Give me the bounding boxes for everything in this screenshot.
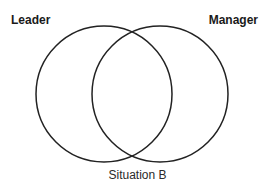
manager-circle — [92, 26, 228, 162]
leader-circle — [36, 26, 172, 162]
manager-label: Manager — [209, 13, 258, 27]
venn-diagram — [0, 0, 275, 187]
leader-label: Leader — [11, 13, 50, 27]
diagram-caption: Situation B — [0, 168, 275, 182]
